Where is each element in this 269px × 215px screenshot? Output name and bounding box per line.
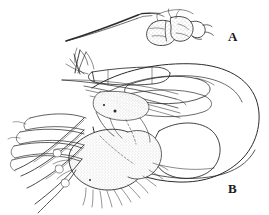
panel-label-b: B bbox=[228, 182, 237, 195]
panel-label-a: A bbox=[228, 30, 238, 43]
figure-panel-container: Fig. 4. Cnephia bbox=[0, 0, 269, 215]
